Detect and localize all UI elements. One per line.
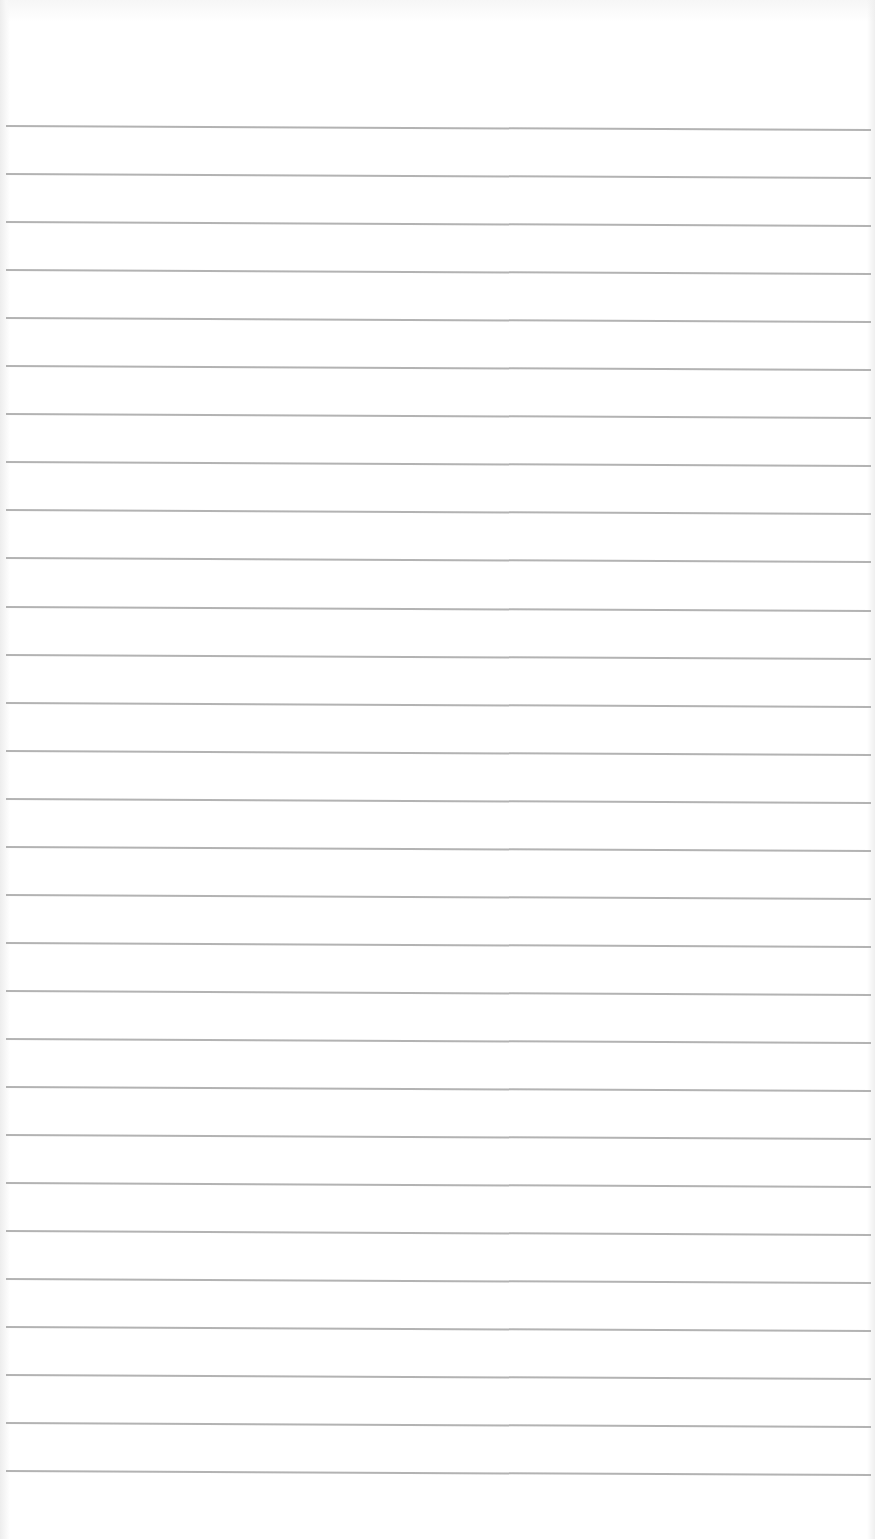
rule-line [6,221,871,227]
ruled-line-text [14,1430,863,1470]
rule-line [6,365,871,371]
paper-edge-left [0,0,10,1539]
ruled-line-text [14,710,863,750]
rule-line [6,413,871,419]
rule-line [6,1230,871,1236]
ruled-line-text [14,1094,863,1134]
rule-line [6,702,871,708]
paper-edge-right [867,0,875,1539]
ruled-line-text [14,1046,863,1086]
rule-line [6,894,871,900]
rule-line [6,1374,871,1380]
ruled-line-text [14,1286,863,1326]
ruled-line-text [14,614,863,654]
ruled-line-text [14,662,863,702]
ruled-line-text [14,902,863,942]
ruled-line-text [14,229,863,269]
ruled-line-text [14,566,863,606]
ruled-line-text [14,950,863,990]
ruled-line-text [14,373,863,413]
rule-line [6,125,871,131]
rule-line [6,461,871,467]
ruled-line-text [14,1334,863,1374]
rule-line [6,750,871,756]
rule-line [6,654,871,660]
ruled-line-text [14,1142,863,1182]
ruled-line-text [14,854,863,894]
ruled-line-text [14,469,863,509]
ruled-line-text [14,181,863,221]
ruled-line-text [14,998,863,1038]
ruled-line-text [14,325,863,365]
ruled-line-text [14,1238,863,1278]
rule-line [6,1134,871,1140]
rule-line [6,1086,871,1092]
ruled-line-text [14,517,863,557]
rule-line [6,269,871,275]
rule-line [6,606,871,612]
rule-line [6,173,871,179]
ruled-line-text [14,1382,863,1422]
ruled-line-text [14,85,863,125]
rule-line [6,1038,871,1044]
rule-line [6,1278,871,1284]
rule-line [6,990,871,996]
ruled-line-text [14,421,863,461]
ruled-line-text [14,277,863,317]
rule-line [6,317,871,323]
rule-line [6,1182,871,1188]
ruled-paper-sheet [0,0,875,1539]
rule-line [6,846,871,852]
rule-line [6,1326,871,1332]
rule-line [6,942,871,948]
scan-shading-top [0,0,875,22]
rule-line [6,1470,871,1476]
ruled-line-text [14,806,863,846]
rule-line [6,798,871,804]
rule-line [6,1422,871,1428]
rule-line [6,557,871,563]
rule-line [6,509,871,515]
ruled-line-text [14,758,863,798]
ruled-line-text [14,1190,863,1230]
ruled-line-text [14,133,863,173]
